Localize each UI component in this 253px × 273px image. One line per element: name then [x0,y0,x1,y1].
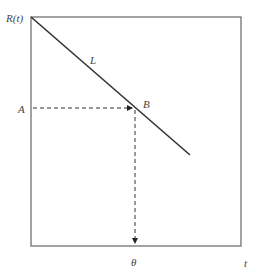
line-L [31,17,190,155]
point-label: B [143,99,150,110]
plot-frame [31,17,241,246]
line-label: L [90,55,96,66]
x-marker-label: θ [131,257,136,268]
y-axis-label: R(t) [6,13,23,24]
y-marker-label: A [18,104,25,115]
x-axis-label: t [244,258,247,269]
diagram-canvas [0,0,253,273]
